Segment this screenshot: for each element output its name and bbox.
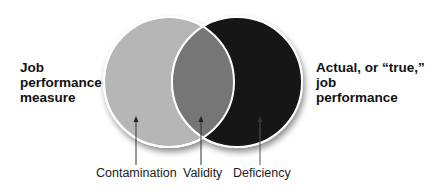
validity-label: Validity bbox=[183, 166, 222, 180]
label-line: measure bbox=[20, 90, 102, 105]
label-line: performance bbox=[20, 75, 102, 90]
label-line: Job bbox=[20, 60, 102, 75]
deficiency-label: Deficiency bbox=[233, 166, 291, 180]
label-line: job bbox=[316, 75, 425, 90]
venn-diagram: Job performance measure Actual, or “true… bbox=[0, 0, 441, 192]
job-performance-measure-label: Job performance measure bbox=[20, 60, 102, 105]
actual-job-performance-label: Actual, or “true,” job performance bbox=[316, 60, 425, 105]
contamination-label: Contamination bbox=[96, 166, 177, 180]
label-line: Actual, or “true,” bbox=[316, 60, 425, 75]
label-line: performance bbox=[316, 90, 425, 105]
